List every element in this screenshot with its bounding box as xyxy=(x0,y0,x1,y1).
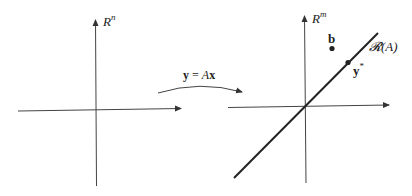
left-x-axis xyxy=(18,109,181,112)
mapping-eq: = xyxy=(189,68,202,82)
point-b-label: b xyxy=(328,32,335,45)
left-space-sup: n xyxy=(111,12,116,22)
right-space-label: Rm xyxy=(312,12,326,25)
right-space-sup: m xyxy=(320,9,327,19)
mapping-label: y = Ax xyxy=(183,69,215,81)
y-star-sup: * xyxy=(360,61,365,71)
right-space-base: R xyxy=(312,11,320,26)
mapping-x: x xyxy=(209,68,215,82)
right-x-axis xyxy=(228,105,389,108)
range-label: 𝓡(A) xyxy=(369,40,398,53)
right-axes xyxy=(228,16,389,183)
point-y-star-label: y* xyxy=(353,64,364,77)
left-space-label: Rn xyxy=(103,15,115,28)
diagram-canvas xyxy=(0,0,412,196)
left-y-axis xyxy=(96,20,97,186)
point-b xyxy=(329,46,334,51)
right-y-axis xyxy=(305,16,307,183)
y-star-base: y xyxy=(353,63,360,78)
point-y-star xyxy=(345,60,350,65)
left-axes xyxy=(18,20,181,186)
mapping-arrow xyxy=(158,86,242,93)
left-space-base: R xyxy=(103,14,111,29)
